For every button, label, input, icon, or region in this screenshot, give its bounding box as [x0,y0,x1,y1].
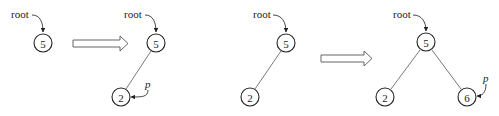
panel-1: root 5 [11,8,52,52]
panel-4: root 5 2 6 p [376,8,489,106]
tree-node: 2 [376,88,394,106]
p-pointer-arrow-icon [477,84,486,96]
root-label: root [253,8,271,20]
node-value: 6 [464,92,470,104]
node-value: 2 [382,92,388,104]
root-label: root [393,8,411,20]
root-label: root [124,8,142,20]
tree-node: 5 [147,34,165,52]
hollow-right-arrow-icon [321,51,372,66]
tree-node: 5 [34,34,52,52]
node-value: 2 [118,92,124,104]
p-pointer-label: p [482,72,489,84]
tree-node: 5 [277,34,295,52]
tree-node: 2 [241,88,259,106]
tree-node: 2 [112,88,130,106]
bst-insertion-diagram: root 5 root 5 2 p root 5 [0,0,499,116]
root-pointer-arrow-icon [32,15,43,32]
root-pointer-arrow-icon [413,15,426,31]
p-pointer-label: p [144,78,151,90]
tree-node: 5 [417,33,435,51]
node-value: 5 [40,38,46,50]
hollow-right-arrow-icon [73,36,128,51]
node-value: 2 [247,92,253,104]
node-value: 5 [423,37,429,49]
tree-node: 6 [458,88,476,106]
node-value: 5 [153,38,159,50]
root-pointer-arrow-icon [145,15,156,32]
root-pointer-arrow-icon [273,15,286,32]
panel-3: root 5 2 [241,8,295,106]
tree-edge [432,50,461,89]
tree-edge [391,50,420,89]
panel-2: root 5 2 p [112,8,165,106]
p-pointer-arrow-icon [131,90,148,97]
node-value: 5 [283,38,289,50]
root-label: root [11,8,29,20]
tree-edge [255,51,281,89]
